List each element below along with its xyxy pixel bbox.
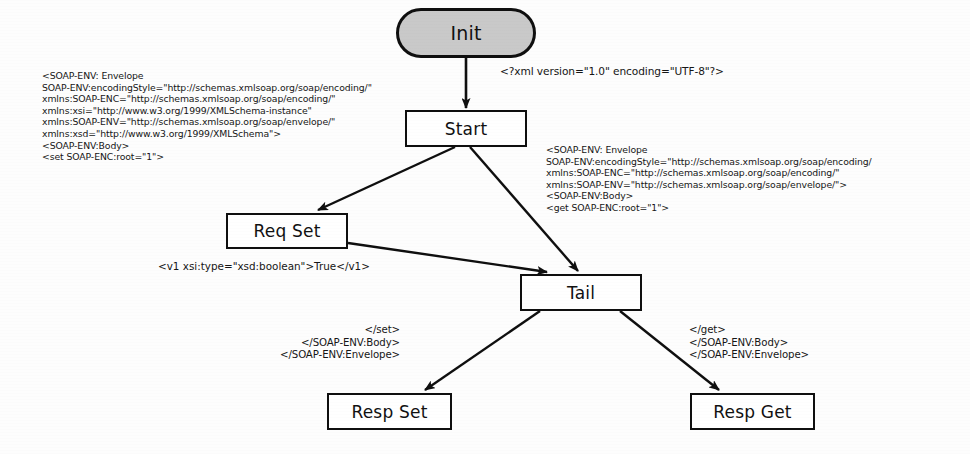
node-req-set-label: Req Set	[253, 221, 320, 241]
edge-tail-to-resp-set	[425, 311, 540, 390]
node-req-set[interactable]: Req Set	[226, 213, 348, 249]
annotation-boolean-value-param: <v1 xsi:type="xsd:boolean">True</v1>	[158, 260, 370, 272]
annotation-xml-declaration: <?xml version="1.0" encoding="UTF-8"?>	[500, 65, 724, 78]
edge-layer	[0, 0, 970, 454]
edge-req-set-to-tail	[348, 243, 547, 272]
scan-texture-overlay	[0, 0, 970, 454]
node-resp-set[interactable]: Resp Set	[327, 393, 452, 430]
annotation-soap-set-close: </set> </SOAP-ENV:Body> </SOAP-ENV:Envel…	[215, 324, 400, 362]
node-tail[interactable]: Tail	[520, 274, 642, 311]
node-resp-get[interactable]: Resp Get	[690, 393, 815, 430]
node-resp-set-label: Resp Set	[351, 402, 427, 422]
annotation-soap-get-close: </get> </SOAP-ENV:Body> </SOAP-ENV:Envel…	[689, 324, 809, 362]
node-start-label: Start	[445, 119, 488, 139]
node-tail-label: Tail	[567, 283, 595, 303]
annotation-soap-set-request: <SOAP-ENV: Envelope SOAP-ENV:encodingSty…	[42, 70, 372, 163]
diagram-canvas: Init Start Req Set Tail Resp Set Resp Ge…	[0, 0, 970, 454]
node-init-label: Init	[450, 22, 481, 44]
annotation-soap-get-request: <SOAP-ENV: Envelope SOAP-ENV:encodingSty…	[546, 144, 872, 214]
node-resp-get-label: Resp Get	[713, 402, 791, 422]
node-start[interactable]: Start	[405, 110, 527, 147]
node-init[interactable]: Init	[396, 8, 536, 58]
